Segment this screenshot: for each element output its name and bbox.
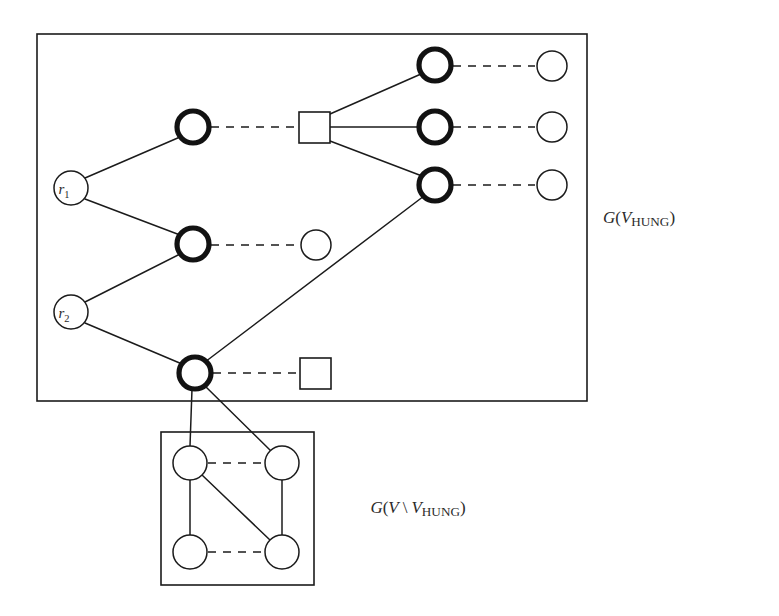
inner-circle-node-i2[interactable] [265, 446, 299, 480]
thin-circle-node-t1[interactable] [537, 51, 567, 81]
inner-circle-node-i4[interactable] [265, 535, 299, 569]
inner-label-backslash: \ [403, 498, 408, 517]
edge-r1-b1 [85, 137, 180, 178]
bold-circle-node-b6[interactable] [419, 169, 451, 201]
edge-s1-b4 [330, 74, 421, 114]
bold-circle-node-b3[interactable] [179, 357, 211, 389]
bold-circle-node-b1[interactable] [177, 111, 209, 143]
square-node-s1[interactable] [299, 112, 330, 143]
edge-i1-i4 [202, 475, 270, 540]
solid-edges-group [85, 74, 424, 540]
inner-box-label: G(V\VHUNG) [370, 498, 465, 519]
inner-label-hung: HUNG [422, 504, 461, 519]
outer-label-close-paren: ) [669, 208, 675, 227]
bold-circle-node-b2[interactable] [177, 228, 209, 260]
outer-box-label: G(VHUNG) [603, 208, 675, 229]
r2-index: 2 [64, 313, 69, 324]
inner-label-v: V [388, 498, 401, 517]
square-node-s2[interactable] [300, 358, 331, 389]
thin-circle-node-t2[interactable] [537, 112, 567, 142]
edge-s1-b6 [330, 141, 422, 176]
inner-label-g: G [370, 498, 382, 517]
outer-label-g: G [603, 208, 615, 227]
outer-label-hung: HUNG [631, 214, 670, 229]
thin-circle-node-t3[interactable] [537, 170, 567, 200]
bold-circle-nodes-group [177, 49, 451, 389]
root-nodes-group: G r1 r2 [54, 171, 88, 329]
dashed-edges-group [208, 66, 535, 552]
edge-b6-b3 [205, 196, 424, 362]
edge-r1-b2 [85, 199, 180, 235]
bold-circle-node-b5[interactable] [419, 111, 451, 143]
edge-b3-i2 [205, 386, 271, 451]
inner-circle-node-i3[interactable] [173, 535, 207, 569]
outer-box-hungarian-subgraph [37, 34, 587, 401]
edge-b3-i1 [190, 389, 192, 446]
edge-r2-b2 [85, 254, 180, 302]
diagram-svg: G r1 r2 [0, 0, 779, 616]
inner-label-close-paren: ) [460, 498, 466, 517]
r1-index: 1 [64, 189, 69, 200]
figure-canvas: G r1 r2 [0, 0, 779, 616]
inner-circle-node-i1[interactable] [173, 446, 207, 480]
bold-circle-node-b4[interactable] [419, 49, 451, 81]
thin-circle-node-t4[interactable] [301, 230, 331, 260]
edge-r2-b3 [85, 323, 182, 364]
